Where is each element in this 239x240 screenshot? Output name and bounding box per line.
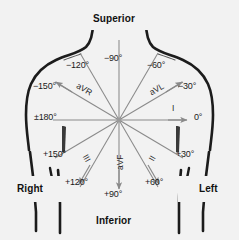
- chest-tick-marks: [62, 126, 180, 153]
- lead-label-aVF: aVF: [116, 154, 125, 170]
- angle-label-plus-30: +30°: [176, 150, 194, 159]
- angle-label-minus-30: −30°: [178, 82, 196, 91]
- angle-label-minus-150: −150°: [33, 82, 56, 91]
- orientation-label-superior: Superior: [93, 14, 135, 24]
- angle-label-plus-90: +90°: [104, 190, 122, 199]
- lead-vectors: [56, 82, 187, 189]
- angle-label-plus-60: +60°: [145, 178, 163, 187]
- angle-label-zero: 0°: [194, 113, 202, 122]
- orientation-label-left: Left: [199, 184, 218, 194]
- angle-label-plus-minus-180: ±180°: [34, 113, 57, 122]
- hexaxial-reference-figure: Superior Inferior Right Left −90° −120° …: [0, 0, 239, 240]
- orientation-label-right: Right: [17, 184, 43, 194]
- lead-aVR-arrow: [56, 82, 72, 92]
- angle-label-plus-120: +120°: [65, 178, 88, 187]
- lead-label-I: I: [172, 104, 174, 113]
- axis-origin: [117, 118, 122, 123]
- angle-label-minus-90: −90°: [104, 54, 122, 63]
- angle-label-plus-150: +150°: [43, 150, 66, 159]
- orientation-label-inferior: Inferior: [96, 216, 131, 226]
- angle-label-minus-120: −120°: [66, 61, 89, 70]
- angle-label-minus-60: −60°: [147, 61, 165, 70]
